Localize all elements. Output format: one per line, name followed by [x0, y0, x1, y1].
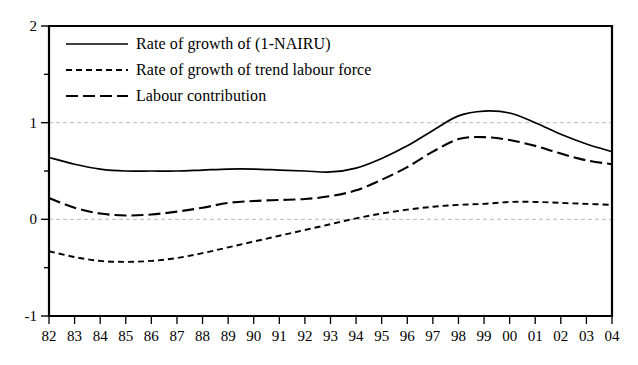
x-tick-label: 85	[118, 329, 133, 344]
x-tick-label: 01	[528, 329, 543, 344]
x-tick-label: 04	[605, 329, 620, 344]
x-tick-label: 89	[221, 329, 236, 344]
x-tick-label: 84	[93, 329, 108, 344]
x-tick-label: 96	[400, 329, 415, 344]
x-tick-label: 87	[169, 329, 184, 344]
y-tick-label: 1	[30, 115, 38, 130]
legend-label: Rate of growth of (1-NAIRU)	[136, 35, 331, 53]
x-tick-label: 82	[42, 329, 57, 344]
x-tick-label: 98	[451, 329, 466, 344]
y-tick-label: 2	[30, 19, 38, 34]
legend-label: Rate of growth of trend labour force	[136, 61, 372, 79]
chart-figure: 210-1 8283848586878889909192939495969798…	[0, 0, 638, 365]
x-tick-label: 00	[502, 329, 517, 344]
x-tick-label: 94	[349, 329, 364, 344]
x-tick-label: 97	[425, 329, 440, 344]
x-tick-label: 90	[246, 329, 261, 344]
x-tick-label: 92	[297, 329, 312, 344]
x-tick-label: 95	[374, 329, 389, 344]
x-tick-label: 88	[195, 329, 210, 344]
x-tick-label: 03	[579, 329, 594, 344]
line-chart-plot	[0, 0, 638, 365]
x-tick-label: 86	[144, 329, 159, 344]
x-tick-label: 99	[477, 329, 492, 344]
legend-label: Labour contribution	[136, 87, 266, 105]
x-tick-label: 93	[323, 329, 338, 344]
x-tick-label: 02	[553, 329, 568, 344]
x-tick-label: 91	[272, 329, 287, 344]
y-tick-label: 0	[30, 212, 38, 227]
y-tick-label: -1	[25, 309, 38, 324]
x-ticks	[49, 316, 612, 324]
x-tick-label: 83	[67, 329, 82, 344]
